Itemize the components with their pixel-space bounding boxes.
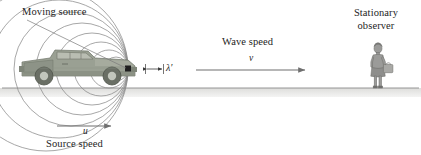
- doppler-effect-figure: Moving source Stationary observer Wave s…: [0, 0, 421, 155]
- wave-speed-symbol: v: [249, 53, 253, 63]
- stationary-observer-label: Stationary observer: [345, 7, 407, 32]
- wavelength-prime-symbol: λ′: [166, 62, 173, 73]
- wave-speed-label: Wave speed: [222, 36, 273, 47]
- observer-figure: [371, 43, 393, 88]
- source-speed-symbol: u: [83, 126, 88, 136]
- moving-source-label: Moving source: [22, 6, 87, 17]
- ground: [0, 88, 421, 97]
- truck-moving-source: [19, 50, 137, 85]
- source-point: [125, 66, 131, 72]
- source-speed-label: Source speed: [46, 138, 103, 149]
- wavelength-indicator: [146, 64, 164, 74]
